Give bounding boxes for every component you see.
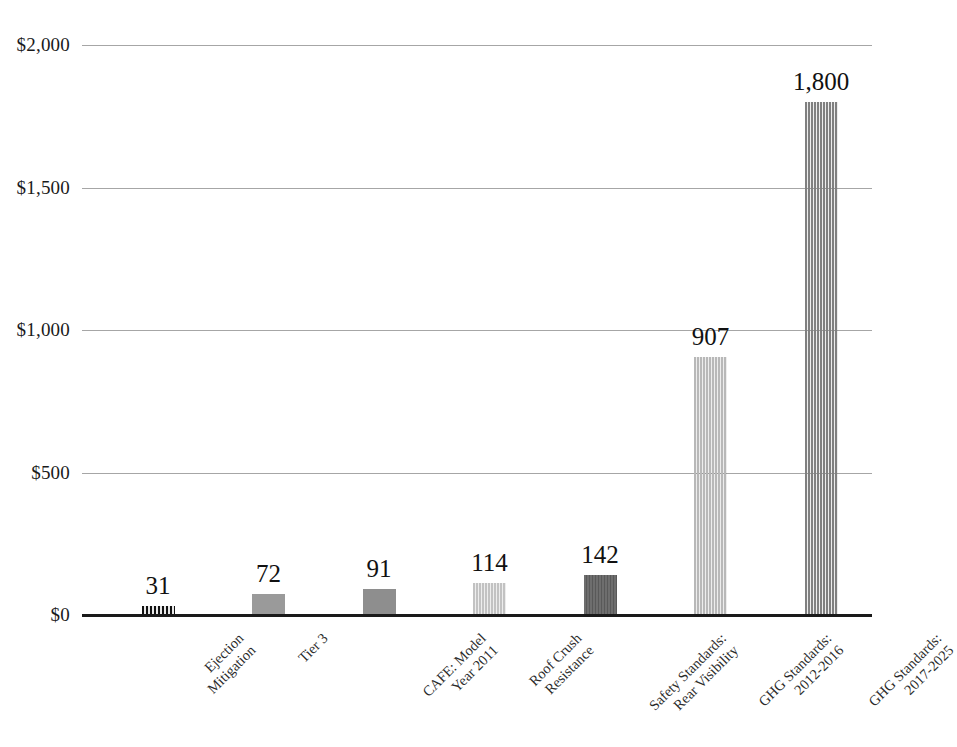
bar-value-label: 72	[209, 561, 329, 586]
gridline-1500	[82, 188, 872, 189]
bar	[252, 594, 285, 615]
gridline-2000	[82, 45, 872, 46]
y-tick-label-1500: $1,500	[17, 178, 70, 197]
y-tick-label-2000: $2,000	[17, 35, 70, 54]
bar-value-label: 142	[540, 542, 660, 567]
bar-value-label: 31	[98, 573, 218, 598]
bar-value-label: 91	[319, 556, 439, 581]
x-axis-baseline	[82, 614, 872, 617]
bar-value-label: 1,800	[761, 69, 881, 94]
x-category-label: GHG Standards:2012-2016	[755, 630, 847, 722]
bar	[584, 575, 617, 615]
x-category-label: CAFE: ModelYear 2011	[419, 630, 502, 713]
x-category-label: GHG Standards:2017-2025	[865, 630, 957, 722]
y-tick-label-500: $500	[31, 463, 70, 482]
bar	[363, 589, 396, 615]
x-category-label: EjectionMitigation	[192, 630, 259, 697]
gridline-500	[82, 473, 872, 474]
x-category-label: Roof CrushResistance	[525, 630, 597, 702]
x-category-label: Safety Standards:Rear Visibility	[646, 630, 742, 726]
bar-value-label: 114	[430, 550, 550, 575]
y-tick-label-1000: $1,000	[17, 320, 70, 339]
y-tick-label-0: $0	[51, 605, 70, 624]
bar	[473, 583, 506, 615]
bar	[805, 102, 838, 615]
x-category-label: Tier 3	[295, 630, 332, 667]
bar	[694, 357, 727, 615]
x-category-line: Tier 3	[295, 630, 332, 667]
bar-value-label: 907	[651, 324, 771, 349]
